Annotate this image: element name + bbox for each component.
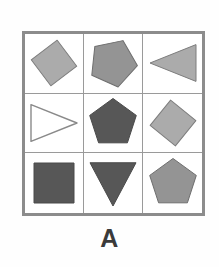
shape-triangle-left [150,45,196,82]
grid-cell-row3-col2[interactable] [84,153,143,213]
grid-cell-row2-col3[interactable] [143,94,202,154]
shape-pentagon [86,36,140,90]
pentagon-icon [146,156,200,210]
grid-cell-row3-col1[interactable] [25,153,84,213]
triangle-down-icon [88,158,138,208]
panel-caption: A [0,224,219,253]
shape-triangle-right [31,105,77,142]
triangle-left-icon [148,38,198,88]
grid-cell-row1-col2[interactable] [84,34,143,94]
pentagon-icon [86,96,140,150]
shape-grid-frame [22,31,205,216]
square-icon [32,161,76,205]
grid-cell-row1-col3[interactable] [143,34,202,94]
grid-cell-row2-col1[interactable] [25,94,84,154]
shape-square [34,163,74,203]
shape-pentagon [149,159,196,203]
shape-triangle-down [90,163,136,206]
figure-root: A [0,0,219,267]
grid-cell-row1-col1[interactable] [25,34,84,94]
triangle-right-icon [29,98,79,148]
shape-diamond [148,98,198,148]
grid-cell-row3-col3[interactable] [143,153,202,213]
shape-diamond [29,38,79,88]
diamond-icon [148,98,198,148]
pentagon-icon [86,36,140,90]
grid-cell-row2-col2[interactable] [84,94,143,154]
diamond-icon [29,38,79,88]
shape-pentagon [90,98,137,142]
shape-grid [25,34,202,213]
